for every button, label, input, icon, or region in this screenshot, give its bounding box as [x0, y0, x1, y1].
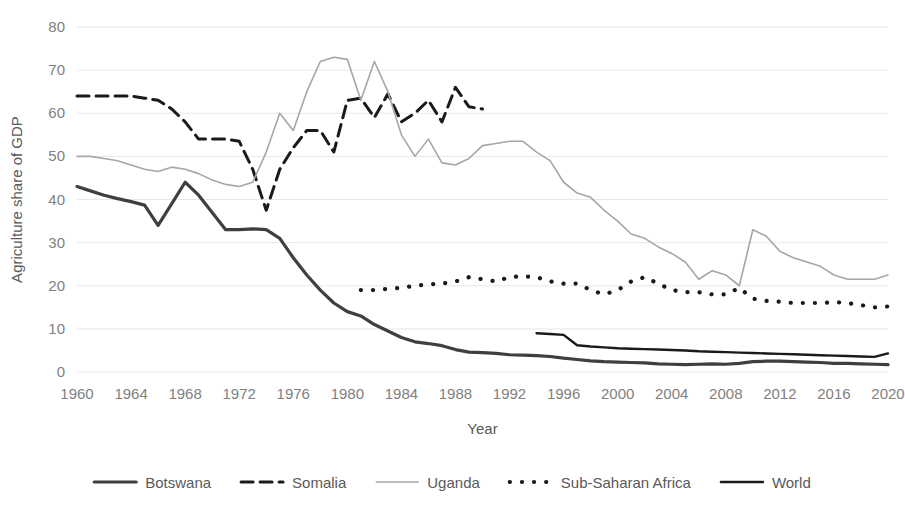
legend: BotswanaSomaliaUgandaSub-Saharan AfricaW… [94, 474, 811, 491]
x-tick-label: 2000 [601, 385, 634, 402]
y-tick-label: 70 [48, 61, 65, 78]
y-tick-label: 50 [48, 147, 65, 164]
y-tick-label: 20 [48, 277, 65, 294]
series-group [77, 57, 888, 364]
x-tick-label: 1972 [223, 385, 256, 402]
x-tick-label: 2012 [763, 385, 796, 402]
legend-label-somalia[interactable]: Somalia [292, 474, 347, 491]
y-axis-title: Agriculture share of GDP [8, 116, 25, 283]
legend-label-world[interactable]: World [772, 474, 811, 491]
x-tick-label: 1964 [114, 385, 147, 402]
y-tick-label: 30 [48, 234, 65, 251]
x-tick-label: 2016 [817, 385, 850, 402]
y-tick-label: 10 [48, 320, 65, 337]
x-tick-label: 1968 [168, 385, 201, 402]
legend-label-uganda[interactable]: Uganda [427, 474, 480, 491]
x-tick-label: 1992 [493, 385, 526, 402]
x-tick-label: 2008 [709, 385, 742, 402]
x-tick-label: 1980 [331, 385, 364, 402]
series-line-sub-saharan-africa [361, 276, 888, 307]
series-line-uganda [77, 57, 888, 286]
gridlines [77, 27, 888, 372]
y-tick-label: 0 [57, 363, 65, 380]
series-line-world [537, 333, 888, 357]
y-tick-label: 40 [48, 191, 65, 208]
x-tick-label: 1976 [277, 385, 310, 402]
x-tick-label: 1960 [60, 385, 93, 402]
x-tick-label: 1988 [439, 385, 472, 402]
legend-label-sub-saharan-africa[interactable]: Sub-Saharan Africa [561, 474, 692, 491]
agriculture-share-line-chart: 0102030405060708019601964196819721976198… [0, 0, 905, 505]
y-tick-label: 80 [48, 18, 65, 35]
series-line-botswana [77, 182, 888, 364]
x-axis-title: Year [467, 420, 497, 437]
x-tick-label: 1984 [385, 385, 418, 402]
chart-canvas: 0102030405060708019601964196819721976198… [0, 0, 905, 505]
x-tick-label: 2004 [655, 385, 688, 402]
y-tick-label: 60 [48, 104, 65, 121]
legend-label-botswana[interactable]: Botswana [145, 474, 212, 491]
x-tick-label: 2020 [871, 385, 904, 402]
x-tick-label: 1996 [547, 385, 580, 402]
